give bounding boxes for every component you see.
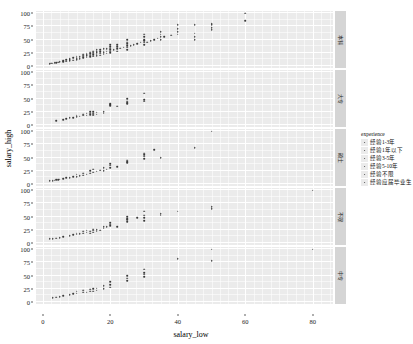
data-point xyxy=(143,41,145,43)
data-point xyxy=(106,168,108,170)
gridline-minor-horizontal xyxy=(36,235,333,236)
data-point xyxy=(62,60,64,62)
data-point xyxy=(109,222,111,224)
gridline-major-horizontal xyxy=(36,248,333,249)
data-point xyxy=(116,50,118,52)
facet-panel xyxy=(36,129,333,186)
data-point xyxy=(72,59,74,61)
legend-item[interactable]: 经验3-5年 xyxy=(361,155,411,162)
data-point xyxy=(86,232,88,234)
legend-item[interactable]: 经验1-3年 xyxy=(361,139,411,146)
data-point xyxy=(143,39,145,41)
data-point xyxy=(116,48,118,50)
data-point xyxy=(126,49,128,51)
gridline-major-horizontal xyxy=(36,275,333,276)
gridline-major-horizontal xyxy=(36,143,333,144)
y-tick-label: 0 xyxy=(27,298,30,305)
data-point xyxy=(130,45,132,47)
gridline-minor-horizontal xyxy=(36,78,333,79)
data-point xyxy=(93,232,95,234)
data-point xyxy=(96,55,98,57)
data-point xyxy=(49,238,51,240)
data-point xyxy=(86,57,88,59)
data-point xyxy=(143,272,145,274)
data-point xyxy=(126,41,128,43)
data-point xyxy=(126,102,128,104)
data-point xyxy=(93,111,95,113)
x-axis-ticks: 020406080 xyxy=(36,314,333,328)
data-point xyxy=(140,41,142,43)
gridline-major-horizontal xyxy=(36,12,333,13)
data-point xyxy=(133,44,135,46)
legend-item[interactable]: 经验应届毕业生 xyxy=(361,179,411,186)
data-point xyxy=(194,39,196,41)
data-point xyxy=(82,233,84,235)
y-tick-mark xyxy=(31,262,33,263)
data-point xyxy=(89,53,91,55)
data-point xyxy=(69,117,71,119)
data-point xyxy=(103,53,105,55)
data-point xyxy=(76,116,78,118)
data-point xyxy=(143,276,145,278)
data-point xyxy=(106,52,108,54)
data-point xyxy=(126,45,128,47)
data-point xyxy=(93,54,95,56)
y-tick-label: 75 xyxy=(24,259,31,266)
data-point xyxy=(69,294,71,296)
facet-strip-label: 中专 xyxy=(337,271,344,281)
y-tick-label: 25 xyxy=(24,285,31,292)
gridline-major-horizontal xyxy=(36,130,333,131)
x-tick-mark xyxy=(42,314,43,316)
y-tick-label: 75 xyxy=(24,200,31,207)
data-point xyxy=(89,233,91,235)
data-point xyxy=(126,218,128,220)
gridline-major-horizontal xyxy=(36,65,333,66)
facet-panel xyxy=(36,11,333,68)
gridline-major-horizontal xyxy=(36,301,333,302)
data-point xyxy=(96,229,98,231)
gridline-minor-horizontal xyxy=(36,150,333,151)
x-tick-label: 20 xyxy=(107,318,114,325)
data-point xyxy=(93,291,95,293)
y-tick-label: 75 xyxy=(24,82,31,89)
legend-item[interactable]: 经验不限 xyxy=(361,171,411,178)
y-tick-mark xyxy=(31,52,33,53)
legend-item[interactable]: 经验5-10年 xyxy=(361,163,411,170)
gridline-minor-horizontal xyxy=(36,268,333,269)
legend-item[interactable]: 经验1年以下 xyxy=(361,147,411,154)
facet-panel xyxy=(36,70,333,127)
data-point xyxy=(194,32,196,34)
data-point xyxy=(177,258,179,260)
data-point xyxy=(79,56,81,58)
data-point xyxy=(126,216,128,218)
data-point xyxy=(55,120,57,122)
data-point xyxy=(160,213,162,215)
data-point xyxy=(109,44,111,46)
data-point xyxy=(82,230,84,232)
legend-key-point-icon xyxy=(361,155,368,162)
legend-key-point-icon xyxy=(361,163,368,170)
y-tick-mark xyxy=(31,170,33,171)
data-point xyxy=(160,36,162,38)
legend-key-point-icon xyxy=(361,147,368,154)
data-point xyxy=(106,226,108,228)
gridline-minor-horizontal xyxy=(36,104,333,105)
data-point xyxy=(211,27,213,29)
y-tick-mark xyxy=(31,275,33,276)
data-point xyxy=(99,49,101,51)
data-point xyxy=(89,114,91,116)
gridline-minor-horizontal xyxy=(36,222,333,223)
y-tick-mark xyxy=(31,190,33,191)
data-point xyxy=(89,173,91,175)
data-point xyxy=(143,92,145,94)
y-tick-mark xyxy=(31,13,33,14)
data-point xyxy=(82,57,84,59)
facet-strip-label: 本科 xyxy=(337,35,344,45)
legend-item-label: 经验5-10年 xyxy=(370,163,398,170)
data-point xyxy=(109,286,111,288)
legend-title: experience xyxy=(361,131,411,137)
data-point xyxy=(160,39,162,41)
y-tick-label: 50 xyxy=(24,154,31,161)
legend-item-label: 经验1年以下 xyxy=(370,147,403,154)
facet-strip-label: 硕士 xyxy=(337,153,344,163)
